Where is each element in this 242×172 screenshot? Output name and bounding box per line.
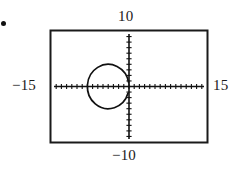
calculator-screen bbox=[0, 0, 242, 172]
graphing-calculator-figure: 10 −10 −15 15 bbox=[0, 0, 242, 172]
